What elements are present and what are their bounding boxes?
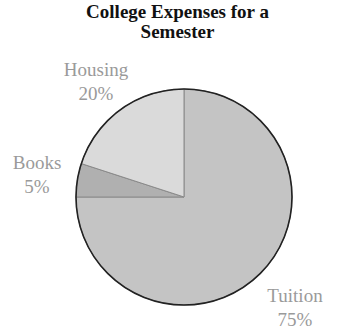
label-tuition-name: Tuition	[267, 285, 323, 306]
label-housing-pct: 20%	[79, 83, 114, 104]
label-books-name: Books	[13, 152, 62, 173]
label-housing-name: Housing	[64, 59, 129, 80]
pie-chart: Housing 20% Books 5% Tuition 75%	[0, 0, 355, 333]
label-tuition-pct: 75%	[278, 309, 313, 330]
label-books-pct: 5%	[24, 176, 50, 197]
